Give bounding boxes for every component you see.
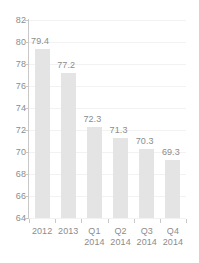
bar-value-label: 77.2 bbox=[57, 61, 75, 70]
y-axis-tick-mark bbox=[25, 196, 29, 197]
y-axis-tick-label: 66 bbox=[4, 192, 26, 201]
y-axis-tick-mark bbox=[25, 42, 29, 43]
x-axis-tick-mark bbox=[81, 219, 82, 223]
x-axis-tick-mark bbox=[186, 219, 187, 223]
x-axis-tick-label-line2: 2014 bbox=[156, 237, 190, 248]
y-axis-tick-mark bbox=[25, 152, 29, 153]
gridline bbox=[29, 64, 186, 65]
bar bbox=[139, 149, 154, 218]
bar-chart: 82807876747270686664 79.477.272.371.370.… bbox=[0, 0, 199, 263]
gridline bbox=[29, 130, 186, 131]
x-axis-tick-label-line1: 2013 bbox=[58, 226, 78, 236]
gridline bbox=[29, 86, 186, 87]
x-axis-tick-mark bbox=[160, 219, 161, 223]
plot-area: 79.477.272.371.370.369.3 bbox=[29, 20, 186, 218]
x-axis-tick-mark bbox=[134, 219, 135, 223]
x-axis-tick-label-line1: 2012 bbox=[32, 226, 52, 236]
y-axis-tick-mark bbox=[25, 108, 29, 109]
bar bbox=[165, 160, 180, 218]
y-axis-tick-mark bbox=[25, 174, 29, 175]
y-axis-tick-label: 64 bbox=[4, 214, 26, 223]
bar-value-label: 71.3 bbox=[110, 126, 128, 135]
bar-value-label: 79.4 bbox=[31, 37, 49, 46]
gridline bbox=[29, 196, 186, 197]
x-axis-tick-mark bbox=[55, 219, 56, 223]
x-axis-tick-label: Q42014 bbox=[156, 226, 190, 248]
bar bbox=[113, 138, 128, 218]
x-axis-tick-label-line1: Q3 bbox=[141, 226, 153, 236]
bar bbox=[87, 127, 102, 218]
x-axis-tick-label-line1: Q1 bbox=[88, 226, 100, 236]
y-axis-tick-label: 74 bbox=[4, 104, 26, 113]
y-axis-tick-label: 82 bbox=[4, 16, 26, 25]
y-axis: 82807876747270686664 bbox=[0, 0, 26, 263]
y-axis-tick-label: 72 bbox=[4, 126, 26, 135]
y-axis-tick-mark bbox=[25, 64, 29, 65]
x-axis-tick-mark bbox=[29, 219, 30, 223]
gridline bbox=[29, 108, 186, 109]
y-axis-tick-label: 68 bbox=[4, 170, 26, 179]
x-axis-tick-mark bbox=[108, 219, 109, 223]
bar-value-label: 69.3 bbox=[162, 148, 180, 157]
x-axis-tick-label-line1: Q2 bbox=[114, 226, 126, 236]
y-axis-tick-label: 70 bbox=[4, 148, 26, 157]
gridline bbox=[29, 42, 186, 43]
bar-value-label: 70.3 bbox=[136, 137, 154, 146]
y-axis-tick-mark bbox=[25, 86, 29, 87]
gridline bbox=[29, 174, 186, 175]
gridline bbox=[29, 20, 186, 21]
bar bbox=[61, 73, 76, 218]
y-axis-tick-mark bbox=[25, 130, 29, 131]
y-axis-tick-mark bbox=[25, 20, 29, 21]
x-axis: 20122013Q12014Q22014Q32014Q42014 bbox=[29, 226, 186, 260]
y-axis-tick-label: 78 bbox=[4, 60, 26, 69]
bar-value-label: 72.3 bbox=[83, 115, 101, 124]
bar bbox=[35, 49, 50, 218]
y-axis-tick-label: 80 bbox=[4, 38, 26, 47]
y-axis-tick-label: 76 bbox=[4, 82, 26, 91]
x-axis-tick-label-line1: Q4 bbox=[167, 226, 179, 236]
